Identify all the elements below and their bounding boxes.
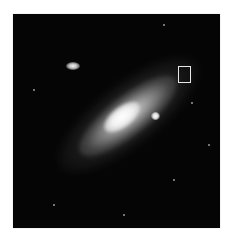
- galaxy-image: [13, 14, 220, 228]
- companion-galaxy-right: [151, 112, 160, 120]
- region-marker: [178, 66, 191, 83]
- star: [123, 214, 125, 216]
- star: [191, 102, 193, 104]
- star: [208, 144, 210, 146]
- star: [33, 89, 35, 91]
- companion-galaxy-upper-left: [66, 62, 80, 70]
- star: [53, 204, 55, 206]
- star: [173, 179, 175, 181]
- star: [163, 24, 165, 26]
